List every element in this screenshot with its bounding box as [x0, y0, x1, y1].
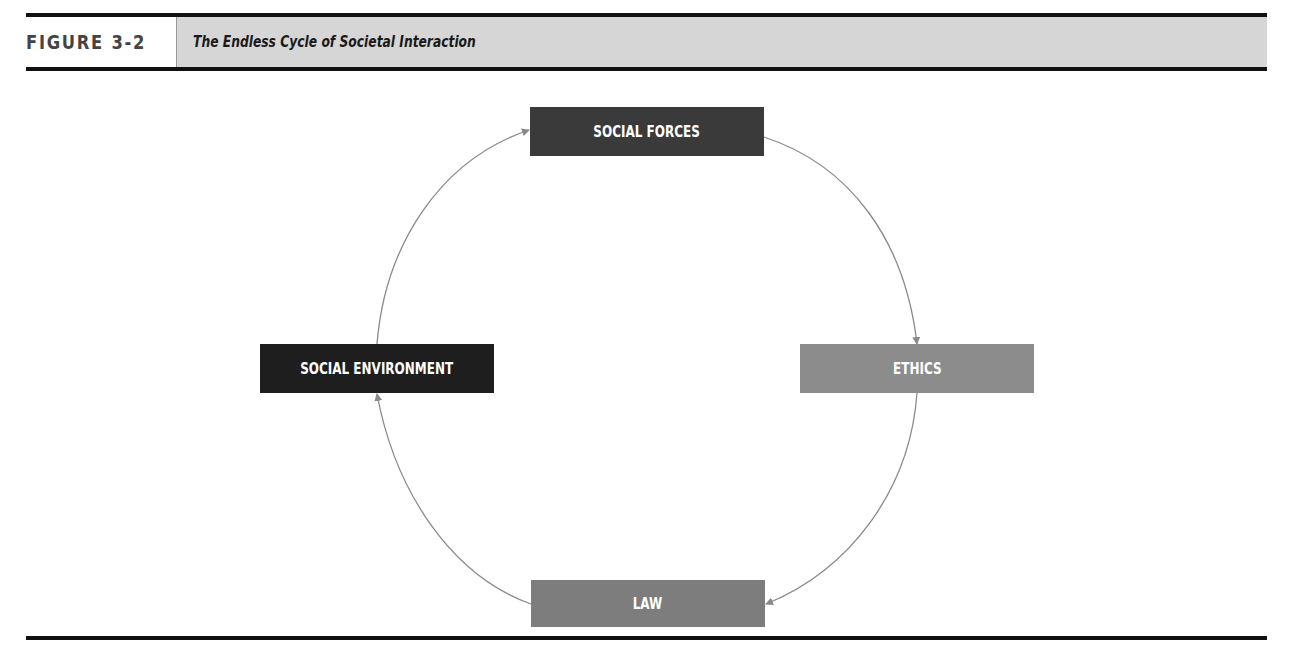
node-social-environment: SOCIAL ENVIRONMENT: [260, 344, 494, 393]
cycle-arrows: [0, 0, 1289, 663]
node-law: LAW: [531, 580, 765, 627]
arrow-ethics-to-law: [766, 393, 917, 604]
node-law-label: LAW: [633, 595, 663, 613]
node-ethics-label: ETHICS: [893, 360, 942, 378]
node-social-forces: SOCIAL FORCES: [530, 107, 764, 156]
arrow-law-to-environment: [377, 394, 531, 604]
node-ethics: ETHICS: [800, 344, 1034, 393]
arrow-environment-to-forces: [377, 130, 529, 344]
node-social-environment-label: SOCIAL ENVIRONMENT: [300, 360, 453, 378]
arrow-forces-to-ethics: [764, 137, 917, 344]
figure-bottom-rule: [26, 636, 1267, 640]
node-social-forces-label: SOCIAL FORCES: [594, 123, 701, 141]
